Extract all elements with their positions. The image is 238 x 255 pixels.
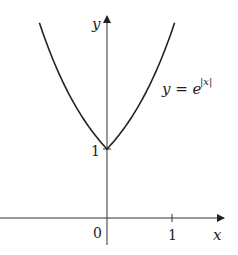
curve-label: y = e |x| (161, 76, 212, 98)
y-axis-label: y (91, 15, 101, 33)
curve-label-exponent: |x| (200, 76, 212, 88)
x-axis-label: x (213, 226, 222, 244)
curve-label-base: y = e (161, 80, 202, 98)
y-tick-1-label: 1 (91, 143, 100, 159)
origin-label: 0 (93, 225, 102, 241)
graph-canvas: y x 0 1 1 y = e |x| (0, 0, 238, 255)
x-tick-1-label: 1 (168, 227, 177, 243)
